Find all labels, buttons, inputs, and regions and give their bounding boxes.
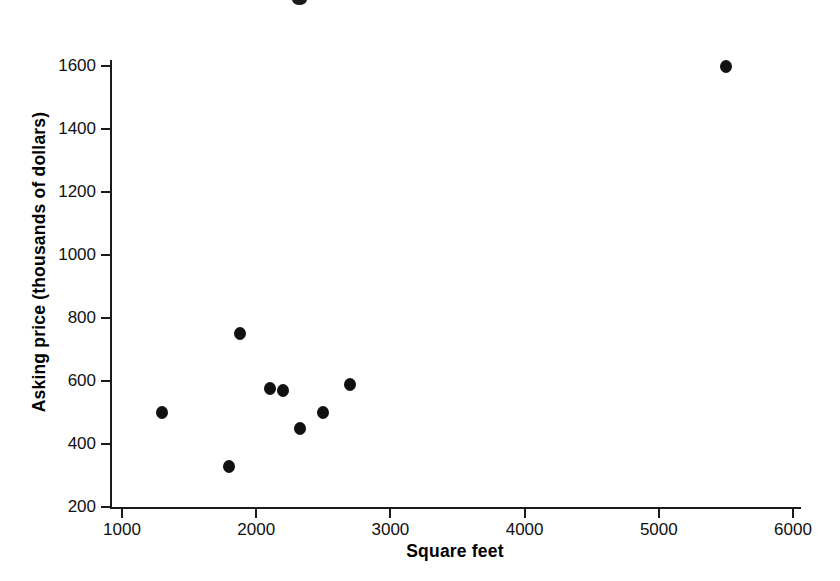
data-point xyxy=(720,60,732,73)
x-axis-tick xyxy=(121,509,123,518)
x-axis-tick xyxy=(524,509,526,518)
data-point xyxy=(264,382,276,395)
y-axis-tick-label: 600 xyxy=(38,371,96,391)
cropped-title-artifact xyxy=(292,0,307,5)
x-axis-tick-label: 5000 xyxy=(619,520,699,540)
y-axis-tick-label: 1200 xyxy=(38,182,96,202)
x-axis-title: Square feet xyxy=(110,541,800,562)
x-axis-tick xyxy=(792,509,794,518)
x-axis-tick-label: 3000 xyxy=(350,520,430,540)
x-axis-tick xyxy=(255,509,257,518)
y-axis-tick xyxy=(101,443,110,445)
x-axis-tick-label: 6000 xyxy=(753,520,833,540)
y-axis-tick-label: 1000 xyxy=(38,245,96,265)
y-axis-tick-label: 200 xyxy=(38,497,96,517)
y-axis-tick xyxy=(101,65,110,67)
x-axis-tick xyxy=(389,509,391,518)
y-axis-tick-label: 1600 xyxy=(38,56,96,76)
y-axis-tick xyxy=(101,506,110,508)
x-axis-tick-label: 2000 xyxy=(216,520,296,540)
data-point xyxy=(277,384,289,397)
scatter-plot-figure: Asking price (thousands of dollars) Squa… xyxy=(0,0,840,581)
data-point xyxy=(344,378,356,391)
y-axis-tick xyxy=(101,317,110,319)
y-axis-tick-label: 800 xyxy=(38,308,96,328)
x-axis-tick-label: 1000 xyxy=(82,520,162,540)
data-point xyxy=(223,460,235,473)
y-axis-tick xyxy=(101,254,110,256)
plot-area xyxy=(110,60,800,507)
y-axis-tick-label: 1400 xyxy=(38,119,96,139)
x-axis-line xyxy=(110,507,801,509)
y-axis-tick xyxy=(101,380,110,382)
x-axis-tick xyxy=(658,509,660,518)
y-axis-tick xyxy=(101,128,110,130)
y-axis-tick-label: 400 xyxy=(38,434,96,454)
x-axis-tick-label: 4000 xyxy=(485,520,565,540)
y-axis-tick xyxy=(101,191,110,193)
